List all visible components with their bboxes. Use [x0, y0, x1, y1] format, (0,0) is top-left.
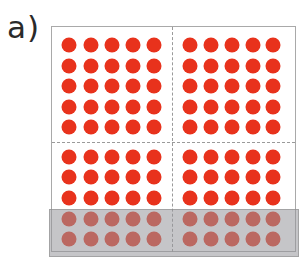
- red-dot: [204, 79, 219, 94]
- red-dot: [183, 120, 198, 135]
- red-dot: [246, 150, 261, 165]
- red-dot: [246, 120, 261, 135]
- red-dot: [147, 120, 162, 135]
- red-dot: [147, 38, 162, 53]
- red-dot: [204, 38, 219, 53]
- red-dot: [246, 191, 261, 206]
- red-dot: [246, 38, 261, 53]
- red-dot: [204, 59, 219, 74]
- red-dot: [266, 79, 281, 94]
- red-dot: [126, 59, 141, 74]
- red-dot: [105, 170, 120, 185]
- red-dot: [62, 59, 77, 74]
- red-dot: [266, 150, 281, 165]
- red-dot: [126, 38, 141, 53]
- red-dot: [183, 170, 198, 185]
- red-dot: [246, 59, 261, 74]
- red-dot: [204, 191, 219, 206]
- red-dot: [266, 120, 281, 135]
- red-dot: [147, 59, 162, 74]
- red-dot: [147, 150, 162, 165]
- red-dot: [84, 150, 99, 165]
- red-dot: [105, 59, 120, 74]
- red-dot: [62, 79, 77, 94]
- grey-cover-overlay: [49, 209, 299, 257]
- red-dot: [105, 38, 120, 53]
- red-dot: [204, 120, 219, 135]
- red-dot: [183, 100, 198, 115]
- red-dot: [225, 79, 240, 94]
- red-dot: [84, 100, 99, 115]
- red-dot: [204, 150, 219, 165]
- red-dot: [84, 59, 99, 74]
- red-dot: [105, 79, 120, 94]
- red-dot: [147, 100, 162, 115]
- red-dot: [246, 100, 261, 115]
- red-dot: [126, 170, 141, 185]
- red-dot: [266, 38, 281, 53]
- red-dot: [204, 100, 219, 115]
- red-dot: [266, 191, 281, 206]
- red-dot: [225, 150, 240, 165]
- red-dot: [62, 191, 77, 206]
- red-dot: [266, 170, 281, 185]
- red-dot: [246, 170, 261, 185]
- red-dot: [126, 100, 141, 115]
- red-dot: [126, 191, 141, 206]
- red-dot: [183, 79, 198, 94]
- red-dot: [84, 170, 99, 185]
- red-dot: [183, 191, 198, 206]
- red-dot: [204, 170, 219, 185]
- exercise-label: a): [7, 8, 40, 46]
- red-dot: [62, 170, 77, 185]
- red-dot: [62, 150, 77, 165]
- red-dot: [147, 170, 162, 185]
- red-dot: [147, 191, 162, 206]
- red-dot: [126, 150, 141, 165]
- red-dot: [225, 59, 240, 74]
- red-dot: [246, 79, 261, 94]
- red-dot: [126, 79, 141, 94]
- red-dot: [183, 38, 198, 53]
- red-dot: [225, 100, 240, 115]
- red-dot: [105, 150, 120, 165]
- red-dot: [62, 38, 77, 53]
- red-dot: [105, 191, 120, 206]
- red-dot: [84, 191, 99, 206]
- red-dot: [62, 120, 77, 135]
- red-dot: [105, 120, 120, 135]
- red-dot: [105, 100, 120, 115]
- red-dot: [183, 150, 198, 165]
- red-dot: [266, 100, 281, 115]
- red-dot: [266, 59, 281, 74]
- red-dot: [84, 38, 99, 53]
- horizontal-divider: [52, 142, 295, 143]
- red-dot: [126, 120, 141, 135]
- red-dot: [84, 79, 99, 94]
- red-dot: [225, 170, 240, 185]
- red-dot: [183, 59, 198, 74]
- red-dot: [225, 120, 240, 135]
- red-dot: [147, 79, 162, 94]
- red-dot: [225, 191, 240, 206]
- red-dot: [225, 38, 240, 53]
- red-dot: [84, 120, 99, 135]
- red-dot: [62, 100, 77, 115]
